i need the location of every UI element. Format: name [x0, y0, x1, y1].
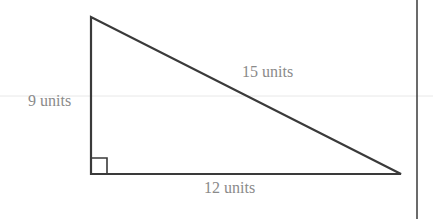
right-triangle-diagram: 9 units 15 units 12 units: [0, 0, 433, 219]
hypotenuse-label: 15 units: [242, 64, 293, 80]
right-angle-marker-icon: [91, 158, 107, 174]
horizontal-leg-label: 12 units: [204, 180, 255, 196]
vertical-leg-label: 9 units: [28, 93, 71, 109]
